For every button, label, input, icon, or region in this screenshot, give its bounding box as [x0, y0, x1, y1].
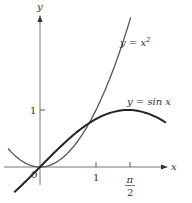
y-tick-label-1: 1	[30, 105, 36, 116]
parabola-curve	[8, 17, 131, 167]
x-tick-label-2: 2	[127, 187, 133, 198]
parabola-label: y = x2	[119, 36, 151, 48]
x-tick-label-1: 1	[93, 172, 99, 183]
x-axis-arrow-icon	[161, 165, 168, 170]
y-axis-label: y	[36, 1, 43, 12]
sine-label: y = sin x	[126, 96, 171, 107]
x-axis-label: x	[171, 161, 177, 172]
origin-label: 0	[31, 169, 37, 180]
chart: y x 0 1 π 2 1 y = x2 y = sin x	[0, 0, 192, 203]
x-tick-label-pi: π	[126, 174, 134, 185]
y-axis-arrow-icon	[38, 15, 43, 22]
